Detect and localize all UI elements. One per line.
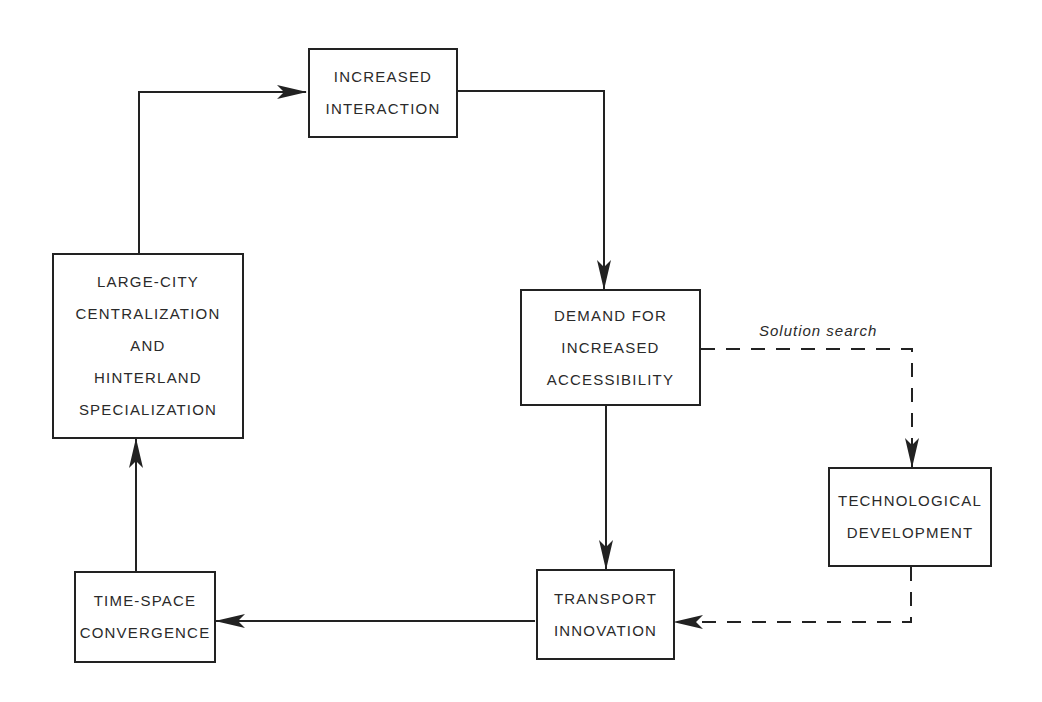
node-text: INNOVATION (554, 615, 657, 647)
node-demand-for-accessibility: DEMAND FOR INCREASED ACCESSIBILITY (520, 289, 701, 406)
arrow-largecity-to-interaction (139, 92, 306, 253)
node-text: INCREASED (561, 332, 659, 364)
node-text: DEMAND FOR (554, 300, 667, 332)
node-text: AND (130, 330, 165, 362)
node-text: HINTERLAND (94, 362, 202, 394)
node-text: INCREASED (334, 61, 432, 93)
node-transport-innovation: TRANSPORT INNOVATION (536, 569, 675, 660)
node-text: LARGE-CITY (97, 266, 199, 298)
arrow-technology-to-transport (674, 567, 911, 622)
edge-label-solution-search: Solution search (759, 322, 877, 339)
flow-diagram: INCREASED INTERACTION LARGE-CITY CENTRAL… (0, 0, 1042, 702)
node-text: CENTRALIZATION (76, 298, 221, 330)
node-text: INTERACTION (326, 93, 441, 125)
arrow-demand-to-technology (701, 349, 912, 467)
node-text: ACCESSIBILITY (547, 364, 674, 396)
node-text: CONVERGENCE (80, 617, 211, 649)
node-text: TRANSPORT (554, 583, 657, 615)
node-text: TECHNOLOGICAL (838, 485, 982, 517)
node-text: SPECIALIZATION (79, 394, 217, 426)
node-text: TIME-SPACE (94, 585, 197, 617)
node-large-city-centralization: LARGE-CITY CENTRALIZATION AND HINTERLAND… (52, 253, 244, 439)
node-time-space-convergence: TIME-SPACE CONVERGENCE (74, 571, 216, 663)
node-text: DEVELOPMENT (847, 517, 974, 549)
node-technological-development: TECHNOLOGICAL DEVELOPMENT (828, 467, 992, 567)
arrow-interaction-to-demand (458, 91, 604, 289)
node-increased-interaction: INCREASED INTERACTION (308, 48, 458, 138)
